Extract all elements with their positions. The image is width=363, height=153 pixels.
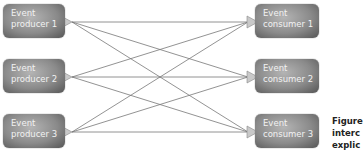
event-producer-3: Event producer 3 (3, 114, 65, 148)
caption-line-3: explic (332, 139, 363, 151)
caption-line-1: Figure (332, 115, 363, 127)
event-consumer-2: Event consumer 2 (255, 59, 319, 93)
figure-caption: Figureintercexplic (332, 115, 363, 151)
event-consumer-1: Event consumer 1 (255, 4, 319, 38)
producer-1-label: Event producer 1 (11, 8, 57, 30)
consumer-2-label: Event consumer 2 (263, 63, 313, 85)
producer-2-label: Event producer 2 (11, 63, 57, 85)
caption-line-2: interc (332, 127, 363, 139)
event-consumer-3: Event consumer 3 (255, 114, 319, 148)
consumer-1-label: Event consumer 1 (263, 8, 313, 30)
producer-3-label: Event producer 3 (11, 118, 57, 140)
event-producer-2: Event producer 2 (3, 59, 65, 93)
consumer-3-label: Event consumer 3 (263, 118, 313, 140)
event-producer-1: Event producer 1 (3, 4, 65, 38)
